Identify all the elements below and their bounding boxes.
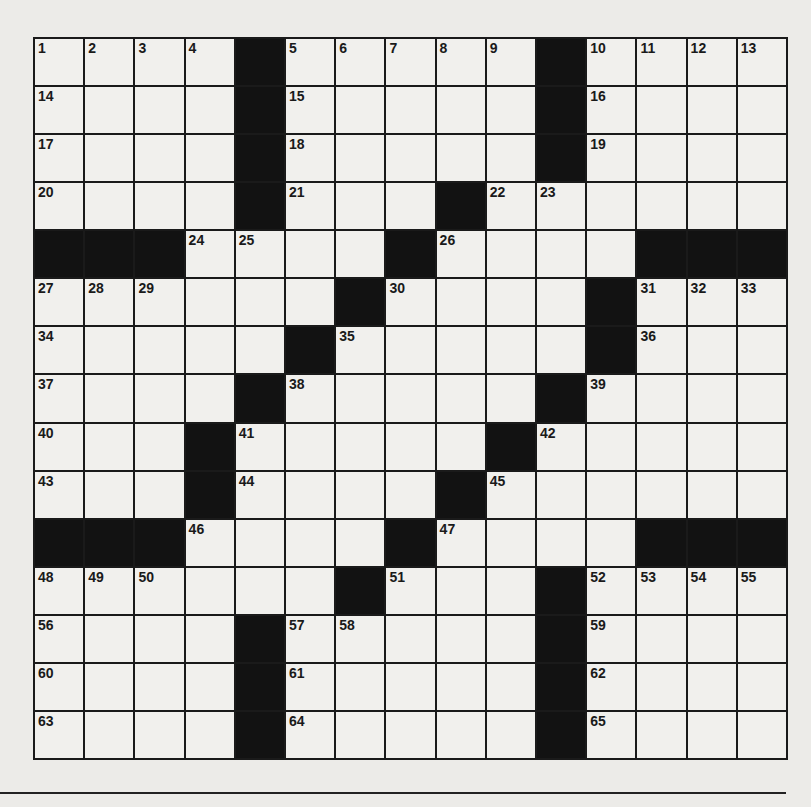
grid-cell[interactable] xyxy=(85,183,133,229)
grid-cell[interactable] xyxy=(587,472,635,518)
grid-cell[interactable]: 59 xyxy=(587,616,635,662)
grid-cell[interactable] xyxy=(688,616,736,662)
grid-cell[interactable] xyxy=(738,87,786,133)
grid-cell[interactable] xyxy=(135,375,183,421)
grid-cell[interactable]: 6 xyxy=(336,39,384,85)
grid-cell[interactable]: 9 xyxy=(487,39,535,85)
grid-cell[interactable] xyxy=(487,135,535,181)
grid-cell[interactable] xyxy=(688,424,736,470)
grid-cell[interactable]: 20 xyxy=(35,183,83,229)
grid-cell[interactable]: 2 xyxy=(85,39,133,85)
grid-cell[interactable] xyxy=(135,327,183,373)
grid-cell[interactable]: 61 xyxy=(286,664,334,710)
grid-cell[interactable]: 19 xyxy=(587,135,635,181)
grid-cell[interactable] xyxy=(186,712,234,758)
grid-cell[interactable]: 27 xyxy=(35,279,83,325)
grid-cell[interactable] xyxy=(637,712,685,758)
grid-cell[interactable]: 31 xyxy=(637,279,685,325)
grid-cell[interactable] xyxy=(487,375,535,421)
grid-cell[interactable]: 56 xyxy=(35,616,83,662)
grid-cell[interactable]: 40 xyxy=(35,424,83,470)
grid-cell[interactable] xyxy=(85,472,133,518)
grid-cell[interactable] xyxy=(738,712,786,758)
grid-cell[interactable] xyxy=(738,183,786,229)
grid-cell[interactable]: 54 xyxy=(688,568,736,614)
grid-cell[interactable] xyxy=(437,616,485,662)
grid-cell[interactable]: 41 xyxy=(236,424,284,470)
grid-cell[interactable] xyxy=(336,231,384,277)
grid-cell[interactable] xyxy=(85,87,133,133)
grid-cell[interactable]: 24 xyxy=(186,231,234,277)
grid-cell[interactable]: 49 xyxy=(85,568,133,614)
grid-cell[interactable] xyxy=(85,616,133,662)
grid-cell[interactable]: 14 xyxy=(35,87,83,133)
grid-cell[interactable]: 22 xyxy=(487,183,535,229)
grid-cell[interactable] xyxy=(688,664,736,710)
grid-cell[interactable] xyxy=(637,472,685,518)
grid-cell[interactable] xyxy=(487,712,535,758)
grid-cell[interactable] xyxy=(386,183,434,229)
grid-cell[interactable]: 11 xyxy=(637,39,685,85)
grid-cell[interactable] xyxy=(437,375,485,421)
grid-cell[interactable] xyxy=(135,472,183,518)
grid-cell[interactable]: 38 xyxy=(286,375,334,421)
grid-cell[interactable] xyxy=(688,327,736,373)
grid-cell[interactable] xyxy=(386,616,434,662)
grid-cell[interactable] xyxy=(487,231,535,277)
grid-cell[interactable] xyxy=(688,472,736,518)
grid-cell[interactable] xyxy=(637,424,685,470)
grid-cell[interactable] xyxy=(186,87,234,133)
grid-cell[interactable] xyxy=(487,520,535,566)
grid-cell[interactable] xyxy=(286,520,334,566)
grid-cell[interactable]: 21 xyxy=(286,183,334,229)
grid-cell[interactable] xyxy=(437,568,485,614)
grid-cell[interactable] xyxy=(85,327,133,373)
grid-cell[interactable] xyxy=(336,375,384,421)
grid-cell[interactable]: 52 xyxy=(587,568,635,614)
grid-cell[interactable]: 62 xyxy=(587,664,635,710)
grid-cell[interactable]: 51 xyxy=(386,568,434,614)
grid-cell[interactable] xyxy=(487,568,535,614)
grid-cell[interactable] xyxy=(135,664,183,710)
grid-cell[interactable]: 25 xyxy=(236,231,284,277)
grid-cell[interactable]: 58 xyxy=(336,616,384,662)
grid-cell[interactable] xyxy=(738,424,786,470)
grid-cell[interactable] xyxy=(537,472,585,518)
grid-cell[interactable]: 39 xyxy=(587,375,635,421)
grid-cell[interactable] xyxy=(688,87,736,133)
grid-cell[interactable] xyxy=(688,135,736,181)
grid-cell[interactable] xyxy=(336,87,384,133)
grid-cell[interactable]: 3 xyxy=(135,39,183,85)
grid-cell[interactable]: 5 xyxy=(286,39,334,85)
grid-cell[interactable]: 57 xyxy=(286,616,334,662)
grid-cell[interactable]: 30 xyxy=(386,279,434,325)
grid-cell[interactable]: 45 xyxy=(487,472,535,518)
grid-cell[interactable] xyxy=(336,472,384,518)
grid-cell[interactable]: 28 xyxy=(85,279,133,325)
grid-cell[interactable] xyxy=(637,375,685,421)
grid-cell[interactable] xyxy=(186,664,234,710)
grid-cell[interactable] xyxy=(637,135,685,181)
grid-cell[interactable] xyxy=(587,231,635,277)
grid-cell[interactable] xyxy=(386,327,434,373)
grid-cell[interactable]: 35 xyxy=(336,327,384,373)
grid-cell[interactable] xyxy=(437,664,485,710)
grid-cell[interactable]: 8 xyxy=(437,39,485,85)
grid-cell[interactable] xyxy=(286,424,334,470)
grid-cell[interactable]: 13 xyxy=(738,39,786,85)
grid-cell[interactable]: 48 xyxy=(35,568,83,614)
grid-cell[interactable] xyxy=(336,664,384,710)
grid-cell[interactable] xyxy=(135,712,183,758)
grid-cell[interactable] xyxy=(336,712,384,758)
grid-cell[interactable] xyxy=(286,568,334,614)
grid-cell[interactable] xyxy=(85,375,133,421)
grid-cell[interactable] xyxy=(738,664,786,710)
grid-cell[interactable] xyxy=(135,616,183,662)
grid-cell[interactable] xyxy=(537,327,585,373)
grid-cell[interactable] xyxy=(85,424,133,470)
grid-cell[interactable] xyxy=(437,424,485,470)
grid-cell[interactable]: 17 xyxy=(35,135,83,181)
grid-cell[interactable]: 36 xyxy=(637,327,685,373)
grid-cell[interactable]: 33 xyxy=(738,279,786,325)
grid-cell[interactable] xyxy=(386,375,434,421)
